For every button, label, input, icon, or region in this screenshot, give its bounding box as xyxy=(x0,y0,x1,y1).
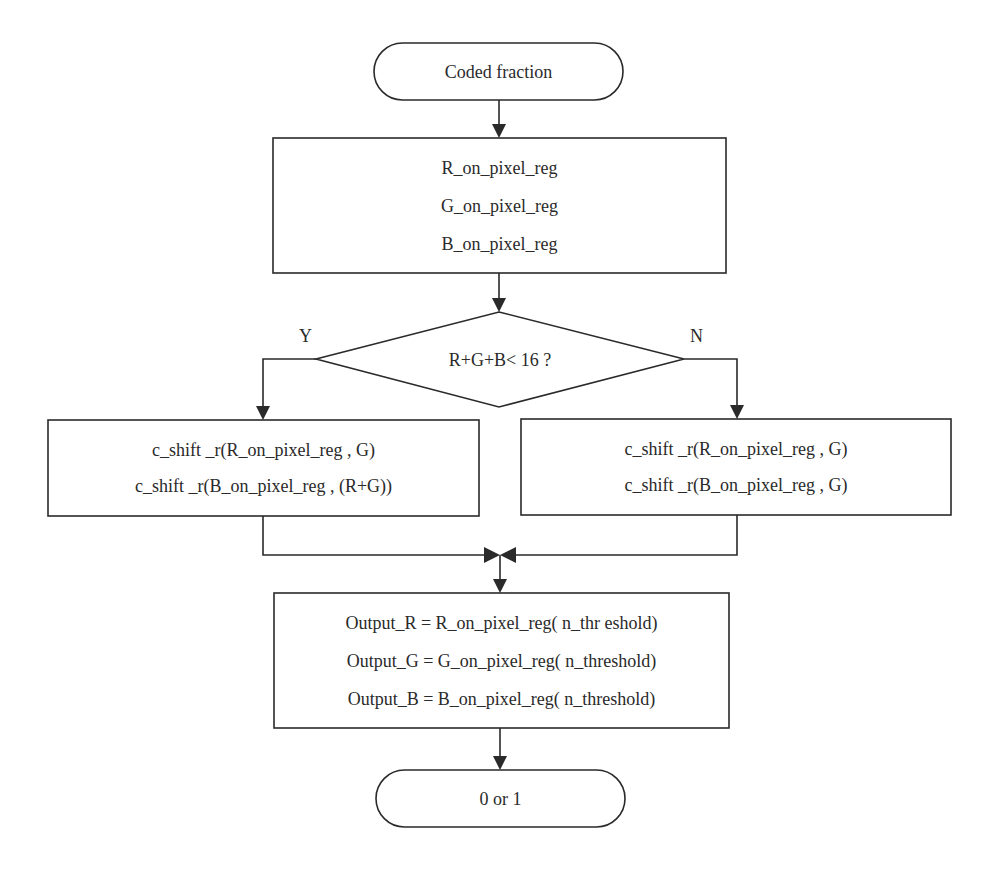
arrow-registers-to-decision xyxy=(492,273,506,312)
merge-connector xyxy=(263,515,737,593)
end-terminator: 0 or 1 xyxy=(376,770,625,827)
yes-branch-line-2: c_shift _r(B_on_pixel_reg , (R+G)) xyxy=(135,468,392,504)
no-label: N xyxy=(690,326,703,347)
register-line-b: B_on_pixel_reg xyxy=(442,225,558,263)
arrow-decision-to-no-branch xyxy=(684,359,744,419)
output-line-b: Output_B = B_on_pixel_reg( n_threshold) xyxy=(348,680,656,718)
no-branch-line-2: c_shift _r(B_on_pixel_reg , G) xyxy=(625,467,848,503)
decision-label: R+G+B< 16 ? xyxy=(449,342,551,378)
output-box: Output_R = R_on_pixel_reg( n_thr eshold)… xyxy=(274,593,729,728)
arrow-decision-to-yes-branch xyxy=(256,359,316,420)
output-line-g: Output_G = G_on_pixel_reg( n_threshold) xyxy=(347,642,657,680)
end-label: 0 or 1 xyxy=(480,781,522,817)
output-line-r: Output_R = R_on_pixel_reg( n_thr eshold) xyxy=(345,604,657,642)
register-line-g: G_on_pixel_reg xyxy=(441,187,558,225)
yes-branch-box: c_shift _r(R_on_pixel_reg , G) c_shift _… xyxy=(48,420,479,516)
arrow-start-to-registers xyxy=(492,100,506,138)
yes-branch-line-1: c_shift _r(R_on_pixel_reg , G) xyxy=(152,432,375,468)
no-branch-line-1: c_shift _r(R_on_pixel_reg , G) xyxy=(625,431,848,467)
no-branch-box: c_shift _r(R_on_pixel_reg , G) c_shift _… xyxy=(521,419,951,515)
start-terminator: Coded fraction xyxy=(374,43,623,100)
registers-box: R_on_pixel_reg G_on_pixel_reg B_on_pixel… xyxy=(273,138,726,273)
start-label: Coded fraction xyxy=(445,54,552,90)
yes-label: Y xyxy=(299,326,312,347)
arrow-output-to-end xyxy=(493,728,507,770)
register-line-r: R_on_pixel_reg xyxy=(442,149,558,187)
decision-diamond: R+G+B< 16 ? xyxy=(316,312,684,407)
